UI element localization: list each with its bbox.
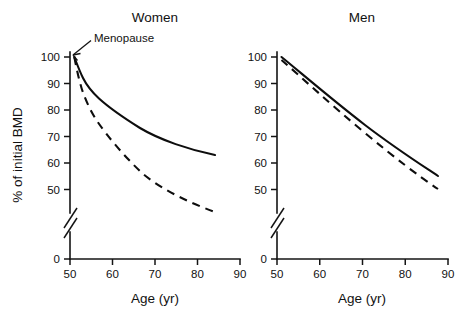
x-tick-label: 90 — [234, 268, 247, 280]
y-tick-label: 0 — [261, 253, 267, 265]
menopause-annotation-label: Menopause — [94, 32, 154, 44]
y-tick-label: 0 — [54, 253, 60, 265]
x-tick-labels-men: 50 60 70 80 90 — [271, 268, 455, 280]
y-tick-label: 100 — [248, 51, 267, 63]
menopause-arrow — [73, 41, 91, 61]
y-tick-label: 50 — [254, 184, 267, 196]
men-dashed-curve — [282, 60, 439, 189]
x-axis-title-men: Age (yr) — [338, 291, 386, 306]
y-tick-label: 100 — [41, 51, 60, 63]
women-dashed-curve — [74, 57, 215, 212]
y-tick-label: 50 — [47, 184, 60, 196]
y-axis-title: % of initial BMD — [10, 107, 25, 203]
x-ticks-men — [277, 259, 448, 265]
y-ticks-women — [64, 57, 70, 259]
y-tick-labels-men: 100 90 80 70 60 50 0 — [248, 51, 267, 265]
x-tick-label: 80 — [399, 268, 412, 280]
x-tick-label: 50 — [64, 268, 77, 280]
panel-men: Men 100 90 80 70 60 50 0 — [248, 10, 455, 306]
y-tick-label: 60 — [254, 157, 267, 169]
x-axis-title-women: Age (yr) — [131, 291, 179, 306]
y-tick-label: 70 — [47, 131, 60, 143]
women-solid-curve — [74, 57, 215, 155]
y-tick-label: 80 — [47, 104, 60, 116]
panel-title-men: Men — [349, 10, 375, 25]
y-tick-label: 60 — [47, 157, 60, 169]
panel-title-women: Women — [132, 10, 178, 25]
x-tick-label: 60 — [313, 268, 326, 280]
y-ticks-men — [271, 57, 277, 259]
x-tick-labels-women: 50 60 70 80 90 — [64, 268, 247, 280]
men-solid-curve — [282, 57, 439, 176]
y-tick-label: 90 — [47, 78, 60, 90]
x-tick-label: 90 — [442, 268, 455, 280]
y-tick-label: 80 — [254, 104, 267, 116]
x-tick-label: 60 — [106, 268, 119, 280]
panel-women: Women 100 90 80 70 60 50 0 — [10, 10, 246, 306]
x-tick-label: 50 — [271, 268, 284, 280]
x-tick-label: 70 — [356, 268, 369, 280]
y-tick-labels-women: 100 90 80 70 60 50 0 — [41, 51, 60, 265]
y-tick-label: 70 — [254, 131, 267, 143]
x-tick-label: 70 — [149, 268, 162, 280]
y-tick-label: 90 — [254, 78, 267, 90]
x-ticks-women — [70, 259, 240, 265]
x-tick-label: 80 — [191, 268, 204, 280]
bmd-age-figure: Women 100 90 80 70 60 50 0 — [0, 0, 467, 320]
